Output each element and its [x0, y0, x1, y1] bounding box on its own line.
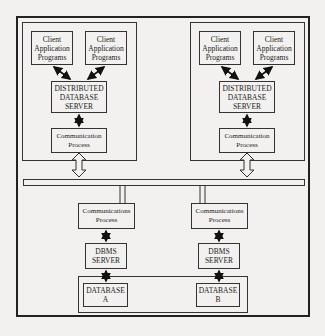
connectors — [0, 0, 325, 336]
arrow-icon — [256, 67, 272, 79]
double-arrow-icon — [240, 153, 254, 177]
double-arrow-icon — [72, 153, 86, 177]
arrow-icon — [222, 67, 238, 79]
arrow-icon — [54, 67, 70, 79]
arrow-icon — [88, 67, 104, 79]
